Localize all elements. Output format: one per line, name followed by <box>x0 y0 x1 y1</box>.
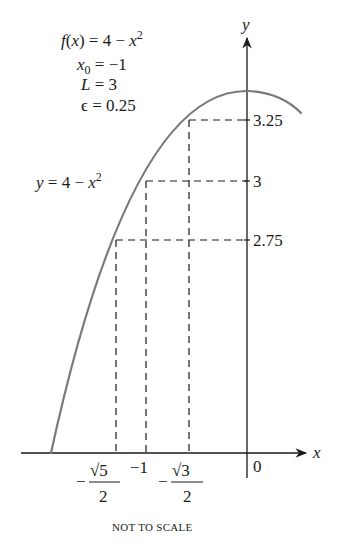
x-tick-neg-sqrt5-over-2: − √5 2 <box>76 461 120 506</box>
x-tick-label-zero: 0 <box>253 457 262 476</box>
given-values: f(x) = 4 − x2 x0 = −1 L = 3 ϵ = 0.25 <box>61 28 143 115</box>
curve-label: y = 4 − x2 <box>34 170 102 192</box>
limit-L-value: L = 3 <box>80 75 117 94</box>
function-definition: f(x) = 4 − x2 <box>61 28 143 50</box>
epsilon-value: ϵ = 0.25 <box>81 96 136 115</box>
caption-not-to-scale: NOT TO SCALE <box>112 521 193 533</box>
y-tick-label-2.75: 2.75 <box>253 231 283 250</box>
y-tick-label-3.25: 3.25 <box>253 111 283 130</box>
svg-text:−: − <box>76 472 86 491</box>
epsilon-delta-diagram: y x f(x) = 4 − x2 x0 = −1 L = 3 ϵ = 0.25… <box>0 0 338 550</box>
x-tick-neg-sqrt3-over-2: − √3 2 <box>158 461 203 506</box>
x-axis-label: x <box>312 443 321 462</box>
parabola-curve <box>51 91 301 453</box>
dashed-guides <box>116 120 247 453</box>
x-tick-label-neg-1: −1 <box>130 458 148 477</box>
svg-text:−: − <box>158 472 168 491</box>
y-axis-label: y <box>240 15 250 34</box>
svg-text:2: 2 <box>99 487 108 506</box>
svg-text:√5: √5 <box>90 461 108 480</box>
x0-value: x0 = −1 <box>76 55 127 77</box>
svg-text:√3: √3 <box>172 461 190 480</box>
y-tick-label-3: 3 <box>253 172 262 191</box>
svg-text:2: 2 <box>183 487 192 506</box>
